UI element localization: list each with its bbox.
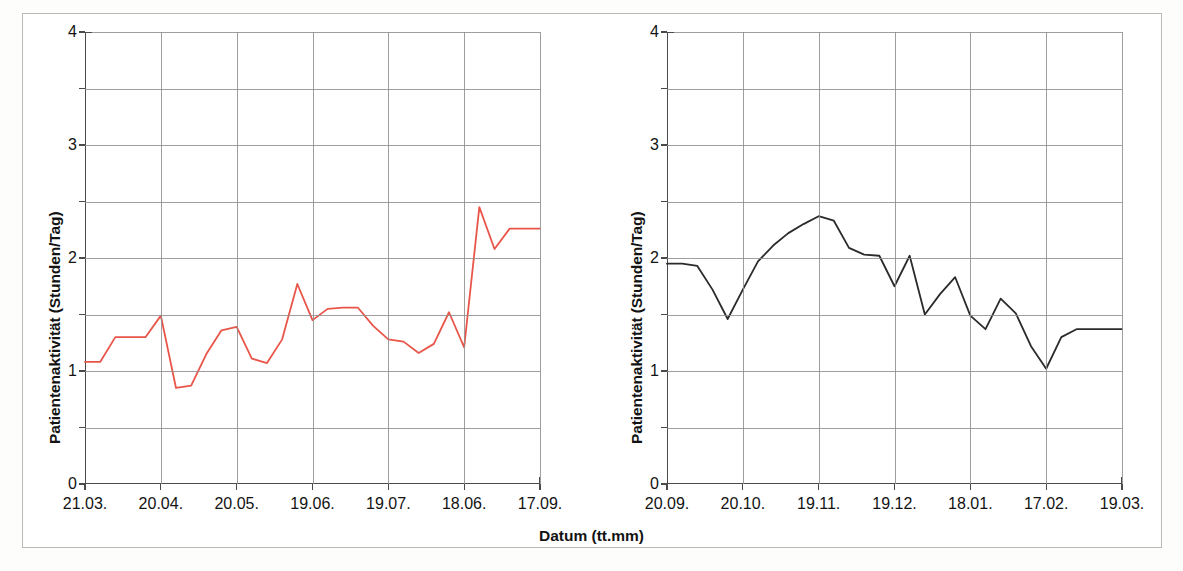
x-tick-label: 19.06. <box>290 495 334 513</box>
x-tick-label: 19.07. <box>366 495 410 513</box>
x-tick-mark <box>312 484 313 490</box>
y-tick-mark <box>79 201 85 202</box>
y-tick-mark <box>79 427 85 428</box>
v-gridline <box>970 32 971 484</box>
x-tick-mark <box>236 484 237 490</box>
y-tick-label: 1 <box>51 362 77 380</box>
x-tick-label: 19.03. <box>1100 495 1144 513</box>
x-tick-label: 17.09. <box>518 495 562 513</box>
x-tick-label: 20.04. <box>139 495 183 513</box>
x-tick-mark <box>1046 484 1047 490</box>
y-tick-mark <box>661 370 667 371</box>
y-tick-label: 0 <box>51 475 77 493</box>
y-tick-label: 4 <box>51 23 77 41</box>
x-tick-mark <box>84 484 85 490</box>
y-tick-labels-left: 01234 <box>51 32 77 484</box>
y-axis-top-cap <box>85 32 92 33</box>
y-tick-mark <box>661 88 667 89</box>
x-tick-label: 20.05. <box>214 495 258 513</box>
x-axis-title: Datum (tt.mm) <box>0 527 1183 545</box>
v-gridline <box>1122 32 1123 484</box>
y-tick-label: 3 <box>51 136 77 154</box>
v-gridline <box>388 32 389 484</box>
chart-panel-left: Patientenaktivität (Stunden/Tag) 01234 2… <box>0 0 592 571</box>
x-tick-label: 19.11. <box>797 495 840 513</box>
x-tick-mark <box>894 484 895 490</box>
x-tick-label: 18.06. <box>442 495 486 513</box>
x-axis-end-cap <box>539 477 540 484</box>
charts-container: Patientenaktivität (Stunden/Tag) 01234 2… <box>0 0 1183 571</box>
x-tick-mark <box>388 484 389 490</box>
y-tick-mark <box>79 144 85 145</box>
x-tick-label: 18.01. <box>948 495 992 513</box>
y-tick-mark <box>79 257 85 258</box>
y-tick-mark <box>79 88 85 89</box>
y-axis-top-cap <box>667 32 674 33</box>
v-gridline <box>464 32 465 484</box>
x-tick-label: 21.03. <box>63 495 107 513</box>
x-tick-mark <box>742 484 743 490</box>
v-gridline <box>313 32 314 484</box>
x-axis-end-cap <box>1121 477 1122 484</box>
y-tick-mark <box>661 314 667 315</box>
v-gridline <box>895 32 896 484</box>
x-tick-label: 20.09. <box>645 495 689 513</box>
y-tick-label: 2 <box>51 249 77 267</box>
v-gridline <box>819 32 820 484</box>
plot-area-right <box>667 32 1122 484</box>
v-gridline <box>161 32 162 484</box>
y-tick-mark <box>661 257 667 258</box>
x-tick-label: 17.02. <box>1024 495 1068 513</box>
v-gridline <box>237 32 238 484</box>
y-tick-label: 4 <box>633 23 659 41</box>
figure-page: Patientenaktivität (Stunden/Tag) 01234 2… <box>0 0 1183 571</box>
x-tick-mark <box>160 484 161 490</box>
x-tick-mark <box>818 484 819 490</box>
plot-area-left <box>85 32 540 484</box>
y-tick-mark <box>79 314 85 315</box>
x-tick-label: 19.12. <box>872 495 916 513</box>
v-gridline <box>743 32 744 484</box>
y-tick-label: 0 <box>633 475 659 493</box>
y-tick-mark <box>661 201 667 202</box>
y-tick-labels-right: 01234 <box>633 32 659 484</box>
x-tick-mark <box>666 484 667 490</box>
chart-panel-right: Patientenaktivität (Stunden/Tag) 01234 2… <box>591 0 1183 571</box>
x-tick-label: 20.10. <box>721 495 765 513</box>
x-tick-mark <box>464 484 465 490</box>
v-gridline <box>1046 32 1047 484</box>
y-tick-label: 3 <box>633 136 659 154</box>
y-tick-mark <box>661 144 667 145</box>
y-tick-mark <box>79 370 85 371</box>
y-tick-mark <box>661 427 667 428</box>
y-tick-label: 1 <box>633 362 659 380</box>
v-gridline <box>540 32 541 484</box>
x-tick-mark <box>539 484 540 490</box>
x-tick-mark <box>970 484 971 490</box>
y-tick-label: 2 <box>633 249 659 267</box>
x-tick-mark <box>1121 484 1122 490</box>
